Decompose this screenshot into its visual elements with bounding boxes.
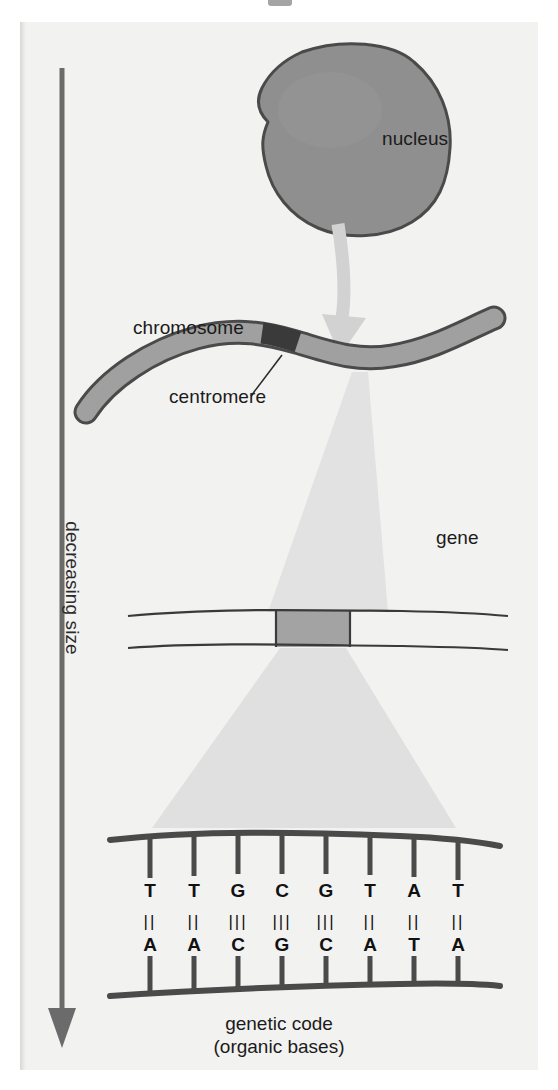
- gene-band: [276, 611, 350, 647]
- label-gene: gene: [436, 527, 479, 549]
- dna-base-top-6: T: [359, 880, 381, 902]
- dna-bond-2: ||: [181, 912, 207, 932]
- dna-bond-3: |||: [225, 912, 251, 932]
- dna-base-bottom-7: T: [403, 934, 425, 956]
- magnification-cone-chromosome-to-gene: [268, 372, 388, 612]
- label-chromosome: chromosome: [133, 317, 244, 339]
- label-centromere: centromere: [169, 386, 266, 408]
- dna-base-top-2: T: [183, 880, 205, 902]
- dna-base-bottom-5: C: [315, 934, 337, 956]
- dna-base-bottom-1: A: [139, 934, 161, 956]
- dna-bond-4: |||: [269, 912, 295, 932]
- dna-base-top-3: G: [227, 880, 249, 902]
- dna-base-bottom-8: A: [447, 934, 469, 956]
- figure-caption: genetic code (organic bases): [0, 1012, 558, 1058]
- dna-backbone-top: [110, 833, 500, 846]
- magnification-cone-gene-to-dna: [152, 648, 456, 828]
- dna-base-bottom-2: A: [183, 934, 205, 956]
- dna-base-bottom-3: C: [227, 934, 249, 956]
- dna-base-top-4: C: [271, 880, 293, 902]
- dna-bond-5: |||: [313, 912, 339, 932]
- dna-base-bottom-4: G: [271, 934, 293, 956]
- dna-base-top-7: A: [403, 880, 425, 902]
- dna-backbone-bottom: [110, 984, 500, 996]
- dna-base-top-5: G: [315, 880, 337, 902]
- dna-base-bottom-6: A: [359, 934, 381, 956]
- dna-bond-8: ||: [445, 912, 471, 932]
- dna-bond-6: ||: [357, 912, 383, 932]
- dna-base-top-1: T: [139, 880, 161, 902]
- dna-base-top-8: T: [447, 880, 469, 902]
- figure-canvas: nucleus chromosome centromere gene decre…: [0, 0, 558, 1090]
- gene-strand: [128, 610, 508, 650]
- dna-bond-1: ||: [137, 912, 163, 932]
- caption-line-1: genetic code: [0, 1012, 558, 1035]
- nucleus-to-chromosome-arrow: [322, 224, 366, 356]
- label-nucleus: nucleus: [382, 128, 448, 150]
- dna-bond-7: ||: [401, 912, 427, 932]
- caption-line-2: (organic bases): [0, 1035, 558, 1058]
- label-decreasing-size: decreasing size: [61, 488, 83, 688]
- dna-base-ticks-top: [150, 834, 458, 880]
